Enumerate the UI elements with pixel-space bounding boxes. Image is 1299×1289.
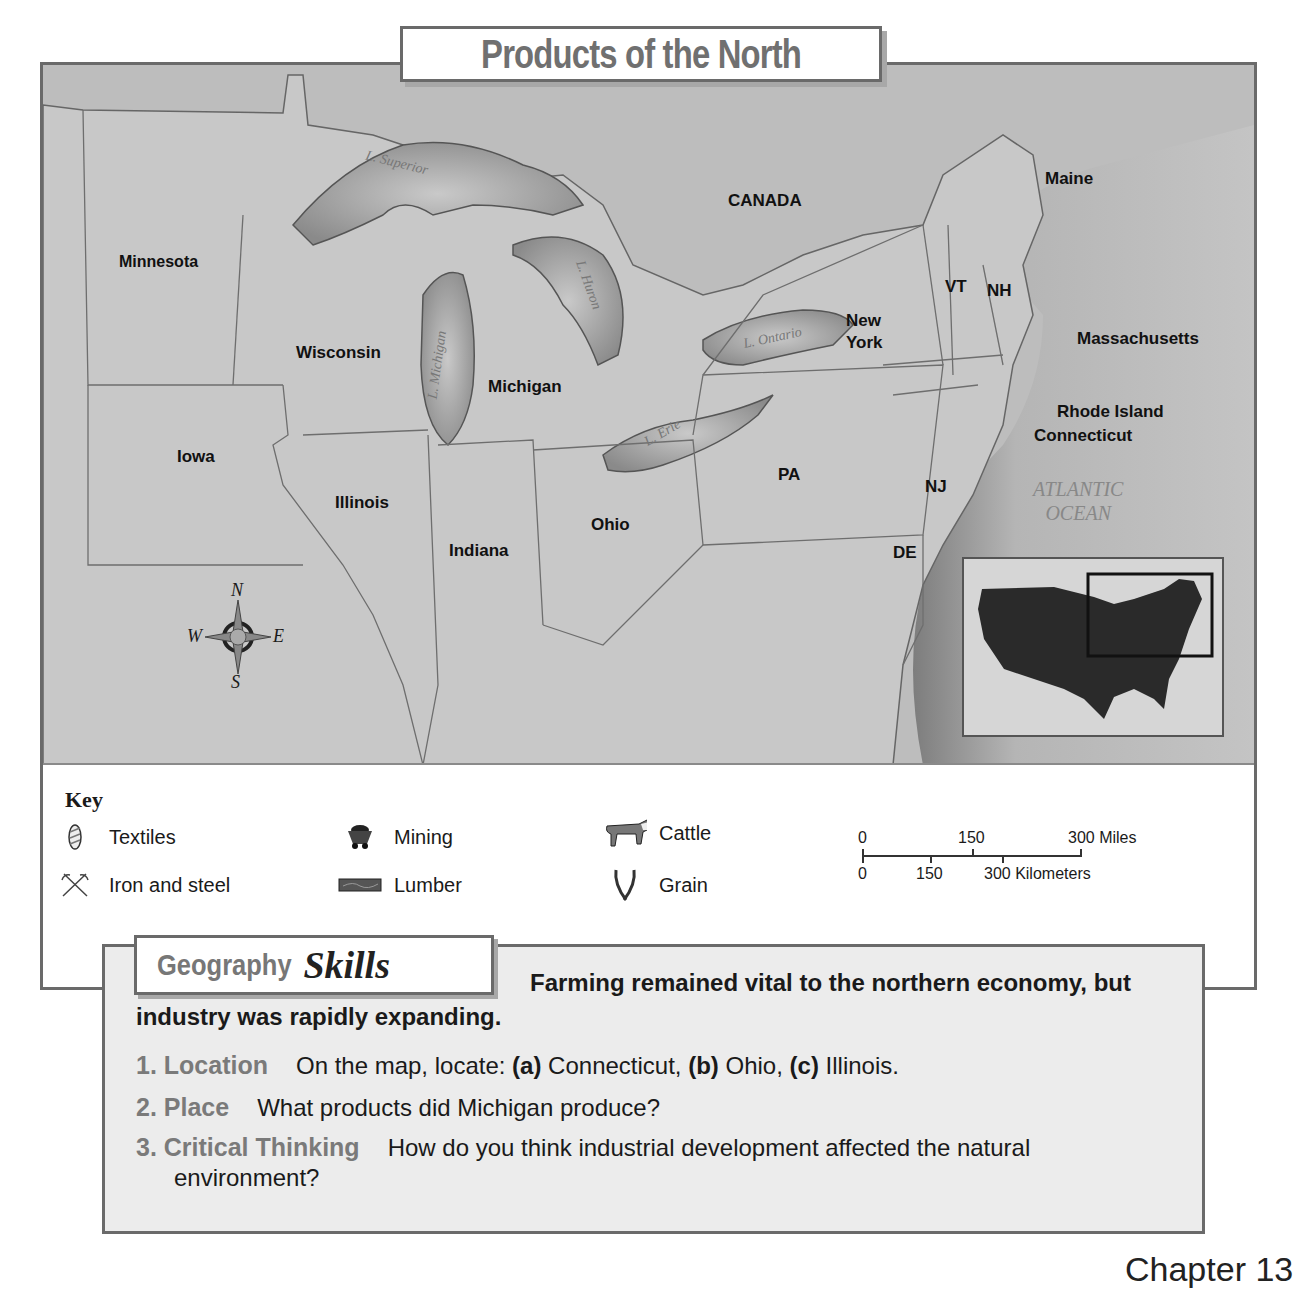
- label-massachusetts: Massachusetts: [1077, 329, 1199, 349]
- scale-mile-150: 150: [958, 829, 985, 847]
- compass-rose: N S W E: [193, 580, 283, 690]
- scale-tick: [862, 849, 864, 863]
- label-new-york-2: York: [846, 333, 883, 353]
- key-label: Textiles: [109, 826, 176, 849]
- key-item-mining: Mining: [338, 823, 453, 851]
- label-vt: VT: [945, 277, 967, 297]
- question-2: 2. PlaceWhat products did Michigan produ…: [136, 1092, 1176, 1123]
- page-footer: Chapter 13: [1125, 1250, 1293, 1289]
- label-iowa: Iowa: [177, 447, 215, 467]
- option-c-text: Illinois.: [819, 1052, 899, 1079]
- question-heading: 3. Critical Thinking: [136, 1133, 360, 1161]
- scale-tick: [972, 849, 974, 857]
- scale-km-150: 150: [916, 865, 943, 883]
- option-b-text: Ohio,: [719, 1052, 790, 1079]
- question-heading: 1. Location: [136, 1051, 268, 1079]
- label-michigan: Michigan: [488, 377, 562, 397]
- scale-mile-0: 0: [858, 829, 867, 847]
- inset-us-map: [962, 557, 1224, 737]
- key-label: Iron and steel: [109, 874, 230, 897]
- geography-skills-tab: Geography Skills: [134, 935, 494, 995]
- label-de: DE: [893, 543, 917, 563]
- key-label: Lumber: [394, 874, 462, 897]
- ocean-line-2: OCEAN: [1033, 501, 1123, 525]
- scale-km-0: 0: [858, 865, 867, 883]
- question-heading: 2. Place: [136, 1093, 229, 1121]
- key-item-iron-steel: Iron and steel: [53, 871, 230, 899]
- label-wisconsin: Wisconsin: [296, 343, 381, 363]
- label-connecticut: Connecticut: [1034, 426, 1132, 446]
- question-text: On the map, locate:: [296, 1052, 512, 1079]
- option-c: (c): [790, 1052, 819, 1079]
- option-a: (a): [512, 1052, 541, 1079]
- label-ohio: Ohio: [591, 515, 630, 535]
- label-atlantic-ocean: ATLANTIC OCEAN: [1033, 477, 1123, 525]
- lumber-icon: [338, 871, 382, 899]
- key-label: Cattle: [659, 822, 711, 845]
- mining-icon: [338, 823, 382, 851]
- textiles-icon: [53, 823, 97, 851]
- ocean-line-1: ATLANTIC: [1033, 477, 1123, 501]
- label-maine: Maine: [1045, 169, 1093, 189]
- compass-w: W: [187, 626, 202, 647]
- scale-km-300: 300 Kilometers: [984, 865, 1091, 883]
- title-text: Products of the North: [481, 32, 801, 77]
- key-label: Grain: [659, 874, 708, 897]
- key-item-lumber: Lumber: [338, 871, 462, 899]
- compass-n: N: [231, 580, 243, 601]
- skills-tab-skills: Skills: [303, 943, 390, 987]
- label-nj: NJ: [925, 477, 947, 497]
- scale-tick: [1002, 855, 1004, 863]
- key-label: Mining: [394, 826, 453, 849]
- label-pa: PA: [778, 465, 800, 485]
- iron-steel-icon: [53, 871, 97, 899]
- option-a-text: Connecticut,: [541, 1052, 688, 1079]
- question-text: What products did Michigan produce?: [257, 1094, 660, 1121]
- grain-icon: [603, 871, 647, 899]
- key-item-grain: Grain: [603, 871, 708, 899]
- scale-tick: [1080, 849, 1082, 857]
- key-item-textiles: Textiles: [53, 823, 176, 851]
- label-canada: CANADA: [728, 191, 802, 211]
- cattle-icon: [603, 819, 647, 847]
- label-illinois: Illinois: [335, 493, 389, 513]
- scale-bar: 0 150 300 Miles 0 150 300 Kilometers: [858, 827, 1158, 887]
- option-b: (b): [688, 1052, 719, 1079]
- label-minnesota: Minnesota: [119, 253, 198, 271]
- label-nh: NH: [987, 281, 1012, 301]
- key-title: Key: [65, 787, 103, 813]
- key-item-cattle: Cattle: [603, 819, 711, 847]
- question-1: 1. LocationOn the map, locate: (a) Conne…: [136, 1050, 1176, 1081]
- scale-tick: [930, 855, 932, 863]
- map-frame: CANADA Minnesota Wisconsin Michigan Iowa…: [40, 62, 1257, 990]
- compass-e: E: [273, 626, 284, 647]
- skills-tab-geography: Geography: [157, 948, 292, 982]
- map-title: Products of the North: [400, 26, 882, 82]
- label-new-york-1: New: [846, 311, 881, 331]
- us-silhouette: [964, 559, 1222, 735]
- label-rhode-island: Rhode Island: [1057, 402, 1164, 422]
- scale-mile-300: 300 Miles: [1068, 829, 1136, 847]
- compass-s: S: [231, 672, 240, 693]
- question-3: 3. Critical ThinkingHow do you think ind…: [136, 1132, 1176, 1193]
- label-indiana: Indiana: [449, 541, 509, 561]
